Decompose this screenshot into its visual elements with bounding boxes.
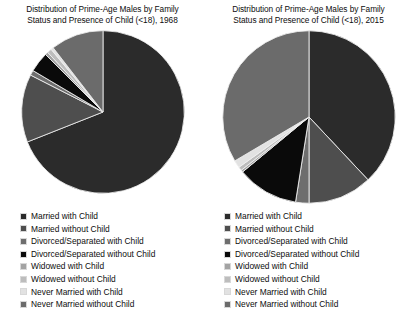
legend-item[interactable]: Divorced/Separated with Child bbox=[20, 235, 206, 248]
legend-item[interactable]: Never Married with Child bbox=[224, 286, 410, 299]
legend-label: Divorced/Separated without Child bbox=[235, 248, 359, 261]
figure-root: Distribution of Prime-Age Males by Famil… bbox=[0, 0, 411, 316]
legend-label: Divorced/Separated with Child bbox=[235, 235, 348, 248]
pie-slices-1968 bbox=[21, 31, 184, 194]
legend-swatch-icon bbox=[20, 238, 27, 245]
legend-item[interactable]: Divorced/Separated without Child bbox=[20, 248, 206, 261]
legend-item[interactable]: Married with Child bbox=[224, 210, 410, 223]
chart-title-line-1: Distribution of Prime-Age Males by Famil… bbox=[214, 4, 404, 15]
legend-item[interactable]: Widowed with Child bbox=[224, 260, 410, 273]
pie-svg-1968 bbox=[20, 29, 186, 195]
legend-swatch-icon bbox=[20, 225, 27, 232]
legend-swatch-icon bbox=[20, 288, 27, 295]
legend-label: Widowed with Child bbox=[31, 260, 104, 273]
legend-label: Married with Child bbox=[235, 210, 302, 223]
legend-2015: Married with ChildMarried without ChildD… bbox=[224, 210, 410, 311]
legend-label: Never Married without Child bbox=[235, 298, 338, 311]
legend-swatch-icon bbox=[224, 213, 231, 220]
legend-item[interactable]: Married without Child bbox=[224, 223, 410, 236]
legend-label: Widowed without Child bbox=[31, 273, 116, 286]
legend-label: Married without Child bbox=[235, 223, 314, 236]
legend-label: Divorced/Separated without Child bbox=[31, 248, 155, 261]
pie-chart-1968 bbox=[20, 29, 186, 195]
legend-item[interactable]: Married without Child bbox=[20, 223, 206, 236]
chart-title-line-1: Distribution of Prime-Age Males by Famil… bbox=[8, 4, 198, 15]
chart-title-1968: Distribution of Prime-Age Males by Famil… bbox=[8, 0, 198, 26]
chart-panel-1968: Distribution of Prime-Age Males by Famil… bbox=[0, 0, 205, 316]
legend-item[interactable]: Widowed without Child bbox=[20, 273, 206, 286]
legend-item[interactable]: Married with Child bbox=[20, 210, 206, 223]
legend-swatch-icon bbox=[224, 276, 231, 283]
chart-title-line-2: Status and Presence of Child (<18), 1968 bbox=[8, 15, 198, 26]
legend-swatch-icon bbox=[224, 263, 231, 270]
legend-label: Married without Child bbox=[31, 223, 110, 236]
legend-swatch-icon bbox=[224, 238, 231, 245]
legend-swatch-icon bbox=[224, 225, 231, 232]
legend-item[interactable]: Divorced/Separated without Child bbox=[224, 248, 410, 261]
chart-title-line-2: Status and Presence of Child (<18), 2015 bbox=[214, 15, 404, 26]
legend-item[interactable]: Never Married without Child bbox=[20, 298, 206, 311]
legend-swatch-icon bbox=[20, 263, 27, 270]
chart-title-2015: Distribution of Prime-Age Males by Famil… bbox=[214, 0, 404, 26]
legend-item[interactable]: Never Married without Child bbox=[224, 298, 410, 311]
legend-swatch-icon bbox=[20, 251, 27, 258]
pie-slices-2015 bbox=[222, 31, 394, 203]
legend-item[interactable]: Never Married with Child bbox=[20, 286, 206, 299]
legend-swatch-icon bbox=[20, 301, 27, 308]
legend-label: Never Married without Child bbox=[31, 298, 134, 311]
chart-panel-2015: Distribution of Prime-Age Males by Famil… bbox=[206, 0, 411, 316]
legend-item[interactable]: Widowed without Child bbox=[224, 273, 410, 286]
legend-item[interactable]: Divorced/Separated with Child bbox=[224, 235, 410, 248]
legend-swatch-icon bbox=[20, 213, 27, 220]
legend-swatch-icon bbox=[224, 301, 231, 308]
legend-label: Divorced/Separated with Child bbox=[31, 235, 144, 248]
legend-swatch-icon bbox=[224, 251, 231, 258]
legend-item[interactable]: Widowed with Child bbox=[20, 260, 206, 273]
legend-label: Married with Child bbox=[31, 210, 98, 223]
legend-swatch-icon bbox=[224, 288, 231, 295]
legend-label: Never Married with Child bbox=[235, 286, 327, 299]
legend-swatch-icon bbox=[20, 276, 27, 283]
legend-label: Widowed without Child bbox=[235, 273, 320, 286]
pie-svg-2015 bbox=[221, 29, 397, 205]
legend-label: Widowed with Child bbox=[235, 260, 308, 273]
pie-chart-2015 bbox=[221, 29, 397, 205]
legend-1968: Married with ChildMarried without ChildD… bbox=[20, 210, 206, 311]
legend-label: Never Married with Child bbox=[31, 286, 123, 299]
